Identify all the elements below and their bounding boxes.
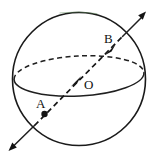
diameter-line-inside-dashed (35, 37, 123, 126)
label-point-a: A (36, 96, 46, 111)
arrow-up-right-icon (138, 12, 146, 20)
diameter-line-outside-upper (123, 17, 143, 37)
equator-ellipse-group (13, 53, 145, 100)
label-point-b: B (104, 31, 113, 46)
label-center-o: O (84, 77, 93, 92)
center-direction-arrowhead-fill-icon (71, 76, 81, 87)
equator-back-half-dashed (13, 53, 144, 80)
point-a-dot-marker (41, 111, 47, 117)
equator-front-half-solid (14, 73, 145, 100)
diagram-canvas: A B O (0, 0, 154, 160)
diameter-line-outside-lower (14, 126, 35, 147)
sphere-diagram-figure: A B O (0, 0, 154, 160)
